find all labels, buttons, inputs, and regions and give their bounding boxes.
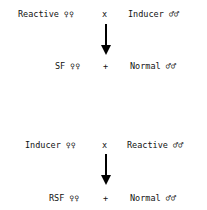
cross2-male-parent: Reactive ♂♂ [127, 140, 183, 150]
arrow-down-icon [105, 154, 107, 176]
cross2-male-offspring: Normal ♂♂ [130, 193, 176, 203]
arrowhead-icon [101, 45, 111, 55]
cross1-female-offspring: SF ♀♀ [55, 61, 81, 71]
cross1-male-parent: Inducer ♂♂ [128, 9, 179, 19]
cross1-plus-symbol: + [103, 61, 108, 71]
arrowhead-icon [101, 175, 111, 185]
cross1-female-parent: Reactive ♀♀ [18, 9, 74, 19]
cross2-female-parent: Inducer ♀♀ [25, 140, 76, 150]
cross1-cross-symbol: x [102, 9, 107, 19]
cross2-female-offspring: RSF ♀♀ [49, 193, 80, 203]
arrow-down-icon [105, 24, 107, 46]
cross1-male-offspring: Normal ♂♂ [130, 61, 176, 71]
cross2-plus-symbol: + [103, 193, 108, 203]
cross2-cross-symbol: x [102, 140, 107, 150]
